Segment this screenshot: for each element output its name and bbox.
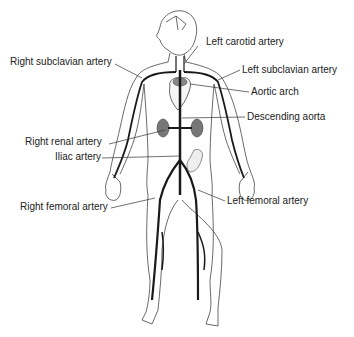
label-aortic-arch: Aortic arch xyxy=(251,86,299,98)
label-descending-aorta: Descending aorta xyxy=(247,111,325,123)
left-arm-inner xyxy=(214,84,240,174)
carotid-vessels xyxy=(176,56,184,72)
right-arm-inner xyxy=(120,84,144,174)
left-femoral-vessel xyxy=(180,160,198,300)
intestine-icon xyxy=(187,149,203,172)
label-left-carotid-artery: Left carotid artery xyxy=(206,36,284,48)
leader-descending-aorta xyxy=(182,117,245,118)
right-femoral-vessel xyxy=(152,160,180,300)
label-iliac-artery: Iliac artery xyxy=(55,151,101,163)
label-right-renal-artery: Right renal artery xyxy=(25,136,102,148)
torso-right-side xyxy=(144,84,148,195)
body-illustration xyxy=(0,0,354,337)
leader-right-femoral xyxy=(111,198,155,208)
head-outline xyxy=(157,11,197,55)
label-left-subclavian-artery: Left subclavian artery xyxy=(242,64,337,76)
leader-right-subclavian xyxy=(115,64,142,78)
arteries xyxy=(114,56,244,300)
label-right-subclavian-artery: Right subclavian artery xyxy=(10,56,112,68)
torso-left-side xyxy=(210,84,214,195)
leader-right-renal xyxy=(109,130,165,144)
label-right-femoral-artery: Right femoral artery xyxy=(20,201,108,213)
left-leg-outline xyxy=(182,195,222,326)
hair-outline xyxy=(166,16,186,30)
arterial-system-diagram: Left carotid artery Right subclavian art… xyxy=(0,0,354,337)
label-left-femoral-artery: Left femoral artery xyxy=(227,195,308,207)
leader-left-femoral xyxy=(198,190,225,201)
leader-left-subclavian xyxy=(218,70,240,80)
left-kidney-icon xyxy=(191,119,203,137)
right-kidney-icon xyxy=(157,119,169,137)
